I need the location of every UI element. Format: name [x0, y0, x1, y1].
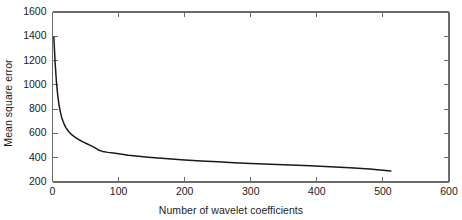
- x-tick-label: 600: [429, 185, 462, 197]
- axis-ticks: [53, 12, 450, 182]
- x-tick-label: 0: [33, 185, 73, 197]
- x-tick-label: 400: [297, 185, 337, 197]
- y-tick-label: 600: [3, 126, 47, 138]
- plot-frame: [53, 12, 450, 182]
- y-tick-label: 1400: [3, 29, 47, 41]
- x-tick-label: 300: [231, 185, 271, 197]
- x-tick-label: 500: [363, 185, 403, 197]
- x-tick-label: 200: [165, 185, 205, 197]
- data-curve: [54, 37, 391, 171]
- chart-figure: Number of wavelet coefficients Mean squa…: [0, 0, 462, 220]
- y-tick-label: 400: [3, 151, 47, 163]
- y-tick-label: 1200: [3, 54, 47, 66]
- x-axis-label: Number of wavelet coefficients: [0, 204, 462, 216]
- y-tick-label: 800: [3, 102, 47, 114]
- x-tick-label: 100: [99, 185, 139, 197]
- mse-curve: [54, 37, 391, 171]
- y-tick-label: 1000: [3, 78, 47, 90]
- y-tick-label: 1600: [3, 5, 47, 17]
